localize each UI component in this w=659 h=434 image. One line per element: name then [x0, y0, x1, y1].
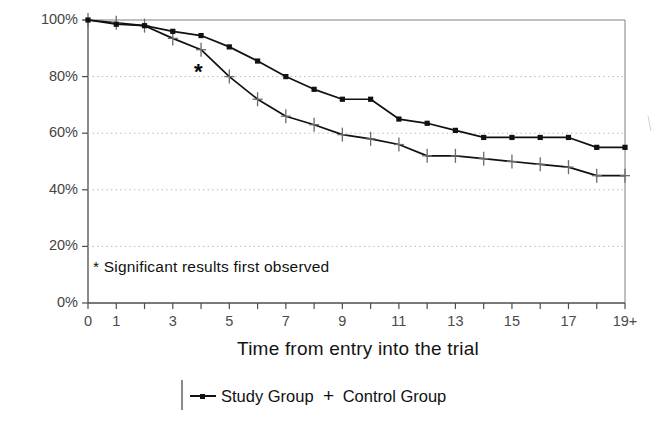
- y-axis-ticks: [82, 20, 88, 303]
- square-marker-icon: [170, 29, 175, 34]
- x-tick-label: 3: [151, 313, 195, 329]
- plus-marker-icon: [592, 169, 602, 183]
- square-marker-icon: [509, 135, 514, 140]
- square-marker-icon: [538, 135, 543, 140]
- significance-star-icon: *: [194, 61, 203, 83]
- square-marker-icon: [368, 97, 373, 102]
- plus-marker-icon: [224, 70, 234, 84]
- legend-label-study: Study Group: [221, 387, 314, 406]
- square-marker-icon: [622, 145, 627, 150]
- study-group-series-line: [88, 20, 625, 147]
- study-group-series: [85, 17, 627, 150]
- square-marker-icon: [312, 87, 317, 92]
- control-group-series-line: [88, 20, 625, 176]
- legend-label-control: Control Group: [343, 387, 447, 406]
- x-axis-title: Time from entry into the trial: [90, 338, 626, 360]
- y-tick-label: 40%: [26, 181, 78, 197]
- plus-marker-icon: [479, 152, 489, 166]
- x-tick-label: 7: [264, 313, 308, 329]
- square-marker-icon: [566, 135, 571, 140]
- x-tick-label: 17: [546, 313, 590, 329]
- scan-artifact: [648, 116, 651, 131]
- control-group-series: [83, 13, 630, 183]
- x-tick-label: 13: [433, 313, 477, 329]
- significance-note: * Significant results first observed: [93, 258, 329, 276]
- x-tick-label: 5: [207, 313, 251, 329]
- square-marker-icon: [340, 97, 345, 102]
- plus-marker-icon: [366, 132, 376, 146]
- plus-marker-icon: [337, 128, 347, 142]
- square-marker-icon: [396, 116, 401, 121]
- square-marker-icon: [190, 389, 216, 403]
- x-axis-ticks: [88, 303, 625, 309]
- y-tick-label: 60%: [26, 124, 78, 140]
- y-tick-label: 20%: [26, 237, 78, 253]
- plus-marker-icon: [309, 118, 319, 132]
- y-tick-label: 80%: [26, 68, 78, 84]
- plus-marker-icon: [196, 43, 206, 57]
- plus-marker-icon: [281, 109, 291, 123]
- plus-marker-icon: [620, 169, 630, 183]
- square-marker-icon: [594, 145, 599, 150]
- x-tick-label: 19+: [603, 313, 647, 329]
- plus-marker-icon: [422, 149, 432, 163]
- square-marker-icon: [198, 33, 203, 38]
- plus-marker-icon: [394, 138, 404, 152]
- chart-legend: Study Group + Control Group: [190, 382, 446, 410]
- y-gridlines: [88, 77, 625, 247]
- plus-marker-icon: [535, 157, 545, 171]
- legend-entry-study: Study Group: [190, 387, 314, 406]
- plus-marker-icon: [507, 155, 517, 169]
- square-marker-icon: [114, 22, 119, 27]
- x-tick-label: 9: [320, 313, 364, 329]
- plus-marker-icon: [450, 149, 460, 163]
- square-marker-icon: [255, 58, 260, 63]
- x-tick-label: 1: [94, 313, 138, 329]
- chart-canvas: [0, 0, 659, 434]
- x-tick-label: 11: [377, 313, 421, 329]
- plus-marker-icon: [253, 92, 263, 106]
- figure-container: 0%20%40%60%80%100% 0135791113151719+ Per…: [0, 0, 659, 434]
- square-marker-icon: [227, 44, 232, 49]
- legend-entry-control: + Control Group: [320, 387, 447, 406]
- plus-marker-icon: [563, 160, 573, 174]
- square-marker-icon: [453, 128, 458, 133]
- square-marker-icon: [85, 17, 90, 22]
- square-marker-icon: [283, 74, 288, 79]
- series-layer: [83, 13, 630, 183]
- y-tick-label: 0%: [26, 294, 78, 310]
- square-marker-icon: [425, 121, 430, 126]
- y-tick-label: 100%: [26, 11, 78, 27]
- x-tick-label: 15: [490, 313, 534, 329]
- plus-marker-icon: +: [320, 389, 338, 403]
- square-marker-icon: [481, 135, 486, 140]
- square-marker-icon: [142, 23, 147, 28]
